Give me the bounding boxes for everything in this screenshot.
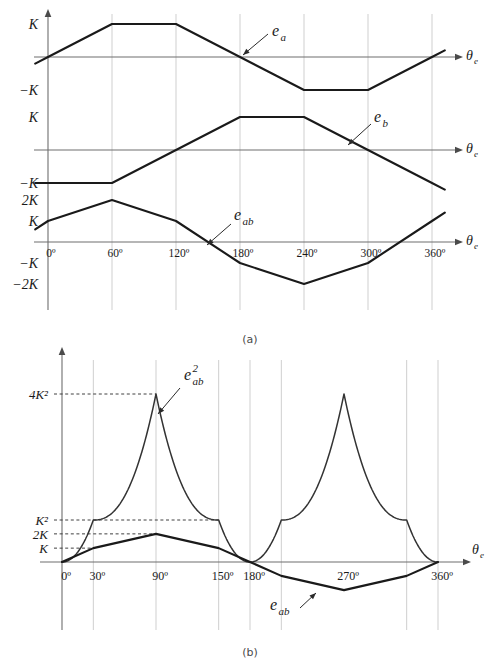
- panel-b-label-eab-squared-sup: 2: [193, 362, 199, 374]
- panel-a-svg: θeK−KθeK−Kθe2KK−K−2K0º60º120º180º240º300…: [0, 0, 500, 330]
- panel-a-xtick-300: 300º: [361, 247, 382, 259]
- panel-a-label-ea-base: e: [272, 22, 279, 39]
- panel-b-svg: θe4K²K²2KK0º30º90º150º180º270º360ºeab2ea…: [0, 330, 500, 650]
- panel-a-xaxis-label-eb: θe: [466, 141, 478, 159]
- panel-a-label-eb-base: e: [374, 108, 381, 125]
- panel-b-label-eab: eab: [270, 596, 290, 617]
- panel-a-xtick-180: 180º: [233, 247, 254, 259]
- panel-b-xtick-0: 0º: [61, 569, 71, 583]
- panel-a-label-eab-base: e: [234, 206, 241, 223]
- panel-b-xtick-90: 90º: [152, 569, 168, 583]
- panel-b-xtick-30: 30º: [89, 569, 105, 583]
- panel-b-pointer-eab-squared: [158, 388, 180, 414]
- panel-b-xaxis-label-text: θ: [472, 542, 479, 557]
- panel-a-xaxis-label-eab-text: θ: [466, 233, 473, 248]
- panel-b-xtick-180: 180º: [243, 569, 265, 583]
- panel-a-ytick-eab-2: −K: [19, 256, 38, 271]
- panel-a-label-eb-sub: b: [383, 117, 389, 129]
- panel-a-ytick-eab-1: K: [28, 214, 39, 229]
- panel-a-ytick-eab-0: 2K: [22, 193, 39, 208]
- figure-root: θeK−KθeK−Kθe2KK−K−2K0º60º120º180º240º300…: [0, 0, 500, 665]
- panel-b-xtick-270: 270º: [337, 569, 359, 583]
- panel-a-label-eb: eb: [374, 108, 389, 129]
- panel-a-ytick-ea-0: K: [28, 17, 39, 32]
- panel-a-x-axis-arrowhead-eab: [455, 239, 463, 246]
- panel-a-xaxis-label-eb-sub: e: [474, 149, 478, 159]
- panel-b-ytick-0: 4K²: [29, 387, 49, 402]
- panel-a-xaxis-label-eb-text: θ: [466, 141, 473, 156]
- panel-b-xtick-360: 360º: [431, 569, 453, 583]
- panel-a-xaxis-label-ea-text: θ: [466, 48, 473, 63]
- panel-b-ytick-2: 2K: [33, 527, 50, 542]
- panel-b-label-eab-base: e: [270, 596, 277, 613]
- panel-a-chart: θeK−KθeK−Kθe2KK−K−2K0º60º120º180º240º300…: [0, 0, 500, 330]
- panel-b-label-eab-sub: ab: [279, 605, 291, 617]
- panel-a-xtick-120: 120º: [169, 247, 190, 259]
- panel-b-gridlines: [93, 360, 438, 630]
- panel-a-xaxis-label-eab: θe: [466, 233, 478, 251]
- panel-b-label-eab-squared-sub: ab: [193, 375, 205, 387]
- panel-a-label-ea: ea: [272, 22, 287, 43]
- panel-b-pointer-eab: [300, 593, 316, 608]
- panel-a-x-axis-arrowhead-ea: [455, 54, 463, 61]
- panel-a-pointer-ea: [243, 34, 268, 55]
- panel-a-xtick-240: 240º: [297, 247, 318, 259]
- panel-a-xtick-60: 60º: [107, 247, 123, 259]
- panel-a-ytick-ea-1: −K: [19, 83, 38, 98]
- panel-a-x-axis-arrowhead-eb: [455, 147, 463, 154]
- panel-b-x-axis-arrowhead: [463, 559, 471, 566]
- panel-b-xaxis-label: θe: [472, 542, 484, 560]
- panel-b-curve-e_ab_squared-lobe-1: [250, 394, 438, 562]
- panel-a-xaxis-label-ea: θe: [466, 48, 478, 66]
- panel-a-y-axis-arrowhead: [45, 9, 52, 17]
- panel-b-ytick-1: K²: [34, 513, 49, 528]
- panel-a-label-eab-sub: ab: [243, 215, 255, 227]
- panel-b-xaxis-label-sub: e: [480, 550, 484, 560]
- panel-b-chart: θe4K²K²2KK0º30º90º150º180º270º360ºeab2ea…: [0, 330, 500, 665]
- panel-b-label-eab-squared-base: e: [184, 366, 191, 383]
- panel-a-ytick-eb-0: K: [28, 110, 39, 125]
- caption-b: (b): [0, 646, 500, 659]
- panel-b-xtick-150: 150º: [212, 569, 234, 583]
- panel-b-y-axis-arrowhead: [59, 347, 66, 355]
- panel-a-gridlines: [112, 14, 432, 310]
- panel-a-xtick-0: 0º: [46, 247, 56, 259]
- panel-b-label-eab-squared: eab2: [184, 362, 204, 387]
- panel-b-ytick-3: K: [38, 541, 49, 556]
- panel-a-ytick-eab-3: −2K: [12, 277, 38, 292]
- panel-a-xtick-360: 360º: [425, 247, 446, 259]
- panel-a-label-eab: eab: [234, 206, 254, 227]
- panel-a-xaxis-label-ea-sub: e: [474, 56, 478, 66]
- panel-a-label-ea-sub: a: [281, 31, 287, 43]
- panel-a-xaxis-label-eab-sub: e: [474, 241, 478, 251]
